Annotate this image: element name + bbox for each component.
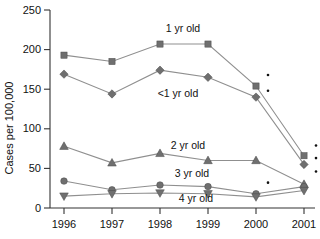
data-point <box>108 90 116 98</box>
y-tick-200: 200 <box>23 43 41 55</box>
series-inline-labels: 1 yr old <1 yr old 2 yr old 3 yr old 4 y… <box>158 22 214 204</box>
series-label-3yr: 3 yr old <box>175 167 210 179</box>
x-tick-2001: 2001 <box>292 218 316 230</box>
line-chart: Cases per 100,000 250 200 150 100 50 0 <box>0 0 320 239</box>
data-point <box>253 83 259 89</box>
data-point <box>300 160 308 168</box>
data-point <box>156 190 165 198</box>
series-label-2yr: 2 yr old <box>171 139 206 151</box>
data-point <box>60 70 68 78</box>
data-point <box>61 52 67 58</box>
asterisk-2000-a <box>267 74 270 77</box>
series--1-yr-old <box>60 66 308 169</box>
y-axis <box>44 10 50 208</box>
data-point <box>60 142 69 150</box>
x-axis-tick-labels: 1996 1997 1998 1999 2000 2001 <box>52 218 316 230</box>
y-axis-tick-labels: 250 200 150 100 50 0 <box>23 4 41 214</box>
data-point <box>252 156 261 164</box>
x-tick-1996: 1996 <box>52 218 76 230</box>
x-axis <box>50 208 315 214</box>
data-point <box>156 66 164 74</box>
y-tick-250: 250 <box>23 4 41 16</box>
x-tick-1997: 1997 <box>100 218 124 230</box>
y-tick-150: 150 <box>23 83 41 95</box>
asterisk-2001-a <box>315 144 318 147</box>
data-point <box>301 153 307 159</box>
data-point <box>204 73 212 81</box>
asterisk-2000-b <box>267 89 270 92</box>
series-label-4yr: 4 yr old <box>179 192 214 204</box>
data-point <box>61 178 68 185</box>
asterisk-2001-c <box>315 170 318 173</box>
data-point <box>252 194 261 202</box>
y-tick-50: 50 <box>29 162 41 174</box>
data-point <box>252 93 260 101</box>
y-tick-0: 0 <box>35 202 41 214</box>
series-label-lt1yr: <1 yr old <box>158 87 199 99</box>
y-axis-title: Cases per 100,000 <box>3 82 15 175</box>
series-label-1yr: 1 yr old <box>166 22 201 34</box>
data-point <box>157 41 163 47</box>
data-point <box>109 58 115 64</box>
data-point <box>60 193 69 201</box>
y-tick-100: 100 <box>23 122 41 134</box>
data-point <box>156 149 165 157</box>
asterisk-2001-b <box>315 157 318 160</box>
x-tick-1998: 1998 <box>148 218 172 230</box>
data-point <box>205 183 212 190</box>
data-point <box>205 41 211 47</box>
asterisk-2000-c <box>267 181 270 184</box>
data-point <box>157 182 164 189</box>
annotation-layer <box>267 74 318 184</box>
x-tick-1999: 1999 <box>196 218 220 230</box>
chart-container: Cases per 100,000 250 200 150 100 50 0 <box>0 0 320 239</box>
x-tick-2000: 2000 <box>244 218 268 230</box>
